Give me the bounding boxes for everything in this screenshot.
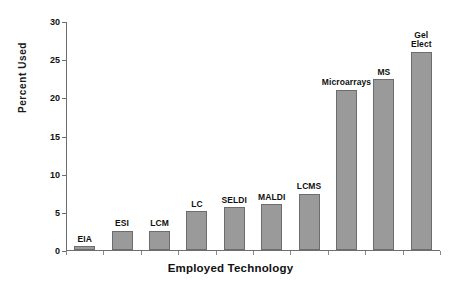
y-tick-label: 20: [30, 94, 60, 103]
bar-gel-elect: [411, 52, 432, 250]
y-tick-mark: [62, 137, 66, 138]
y-tick-mark: [62, 22, 66, 23]
y-tick-label: 30: [30, 18, 60, 27]
bar-microarrays: [336, 90, 357, 250]
x-tick-mark: [253, 251, 254, 255]
y-tick-mark: [62, 98, 66, 99]
x-tick-mark: [66, 251, 67, 255]
bar-eia: [74, 246, 95, 250]
y-tick-mark: [62, 213, 66, 214]
y-axis-title: Percent Used: [17, 13, 28, 143]
x-axis-title: Employed Technology: [0, 262, 461, 274]
x-tick-mark: [365, 251, 366, 255]
bar-esi: [112, 231, 133, 250]
bar-label-lcm: LCM: [130, 219, 190, 229]
x-tick-mark: [178, 251, 179, 255]
bar-lc: [186, 211, 207, 250]
y-tick-label: 0: [30, 247, 60, 256]
x-tick-mark: [328, 251, 329, 255]
x-tick-mark: [141, 251, 142, 255]
y-tick-label: 15: [30, 133, 60, 142]
y-tick-label: 25: [30, 56, 60, 65]
x-tick-mark: [103, 251, 104, 255]
bar-label-eia: EIA: [55, 235, 115, 245]
y-tick-label: 10: [30, 171, 60, 180]
plot-area: 051015202530 EIAESILCMLCSELDIMALDILCMSMi…: [66, 22, 440, 251]
bar-lcm: [149, 231, 170, 250]
bar-label-gel-elect: Gel Elect: [391, 31, 451, 50]
bar-label-lcms: LCMS: [279, 182, 339, 192]
y-tick-label: 5: [30, 209, 60, 218]
bar-ms: [373, 79, 394, 250]
bar-label-microarrays: Microarrays: [317, 78, 377, 88]
x-tick-mark: [216, 251, 217, 255]
bar-maldi: [261, 204, 282, 250]
y-axis-line: [66, 22, 67, 251]
bar-chart-figure: Percent Used 051015202530 EIAESILCMLCSEL…: [0, 0, 461, 290]
x-tick-mark: [440, 251, 441, 255]
y-tick-mark: [62, 175, 66, 176]
bar-label-ms: MS: [354, 68, 414, 78]
x-tick-mark: [290, 251, 291, 255]
y-tick-mark: [62, 60, 66, 61]
bar-lcms: [299, 194, 320, 250]
x-tick-mark: [403, 251, 404, 255]
bar-seldi: [224, 207, 245, 250]
bar-label-maldi: MALDI: [242, 193, 302, 203]
